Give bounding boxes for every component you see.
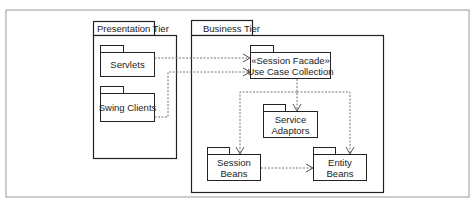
service-adaptors-line2: Adaptors: [271, 125, 309, 136]
entity-beans-line1: Entity: [328, 157, 352, 168]
presentation-tier-label: Presentation Tier: [97, 23, 169, 34]
swing-clients-label: Swing Clients: [99, 102, 157, 113]
entity-beans-line2: Beans: [327, 168, 354, 179]
session-beans-line2: Beans: [221, 168, 248, 179]
session-facade-name: Use Case Collection: [247, 66, 333, 77]
service-adaptors-line1: Service: [275, 114, 307, 125]
servlets-label: Servlets: [110, 59, 145, 70]
session-beans-line1: Session: [217, 157, 251, 168]
session-facade-stereotype: «Session Facade»: [251, 55, 330, 66]
business-tier-label: Business Tier: [203, 23, 260, 34]
diagram-canvas: Presentation Tier Business Tier Servlets…: [0, 0, 476, 208]
